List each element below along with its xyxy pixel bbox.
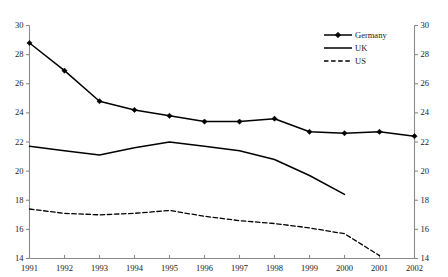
x-axis-tick-label: 1993 bbox=[84, 264, 116, 273]
y-axis-right-tick-label: 26 bbox=[421, 79, 430, 88]
y-axis-right-tick-label: 22 bbox=[421, 138, 430, 147]
x-axis-tick-label: 2001 bbox=[364, 264, 396, 273]
x-axis-tick-label: 1992 bbox=[49, 264, 81, 273]
y-axis-right-tick-label: 28 bbox=[421, 50, 430, 59]
diamond-marker-icon bbox=[272, 116, 277, 121]
y-axis-left-tick-label: 28 bbox=[0, 50, 24, 59]
x-axis-tick-label: 1996 bbox=[189, 264, 221, 273]
diamond-marker-icon bbox=[307, 129, 312, 134]
x-axis-tick-label: 1999 bbox=[294, 264, 326, 273]
y-axis-left-tick-label: 22 bbox=[0, 138, 24, 147]
y-axis-right-tick-label: 14 bbox=[421, 254, 430, 263]
y-axis-left-tick-label: 20 bbox=[0, 167, 24, 176]
diamond-marker-icon bbox=[167, 113, 172, 118]
legend-label-us: US bbox=[355, 57, 366, 66]
x-axis-tick-label: 1997 bbox=[224, 264, 256, 273]
x-axis-tick-label: 1995 bbox=[154, 264, 186, 273]
x-axis-tick-label: 2000 bbox=[329, 264, 361, 273]
series-line-uk bbox=[30, 142, 345, 194]
diamond-marker-icon bbox=[237, 119, 242, 124]
x-axis-tick-label: 1994 bbox=[119, 264, 151, 273]
y-axis-right-tick-label: 24 bbox=[421, 108, 430, 117]
y-axis-right-tick-label: 30 bbox=[421, 21, 430, 30]
x-axis-tick-label: 2002 bbox=[399, 264, 431, 273]
diamond-marker-icon bbox=[202, 119, 207, 124]
legend-label-germany: Germany bbox=[355, 31, 387, 40]
x-axis-tick-label: 1998 bbox=[259, 264, 291, 273]
y-axis-left-tick-label: 30 bbox=[0, 21, 24, 30]
y-axis-right-tick-label: 20 bbox=[421, 167, 430, 176]
legend-label-uk: UK bbox=[355, 44, 367, 53]
y-axis-right-tick-label: 16 bbox=[421, 225, 430, 234]
diamond-marker-icon bbox=[377, 129, 382, 134]
line-chart: 1414161618182020222224242626282830301991… bbox=[0, 0, 448, 277]
y-axis-left-tick-label: 26 bbox=[0, 79, 24, 88]
diamond-marker-icon bbox=[412, 134, 417, 139]
chart-plot-area bbox=[0, 0, 448, 277]
diamond-marker-icon bbox=[132, 107, 137, 112]
diamond-marker-icon bbox=[342, 131, 347, 136]
y-axis-right-tick-label: 18 bbox=[421, 196, 430, 205]
y-axis-left-tick-label: 24 bbox=[0, 108, 24, 117]
diamond-marker-icon bbox=[335, 32, 341, 38]
x-axis-tick-label: 1991 bbox=[14, 264, 46, 273]
y-axis-left-tick-label: 16 bbox=[0, 225, 24, 234]
series-line-us bbox=[30, 209, 380, 256]
y-axis-left-tick-label: 14 bbox=[0, 254, 24, 263]
y-axis-left-tick-label: 18 bbox=[0, 196, 24, 205]
